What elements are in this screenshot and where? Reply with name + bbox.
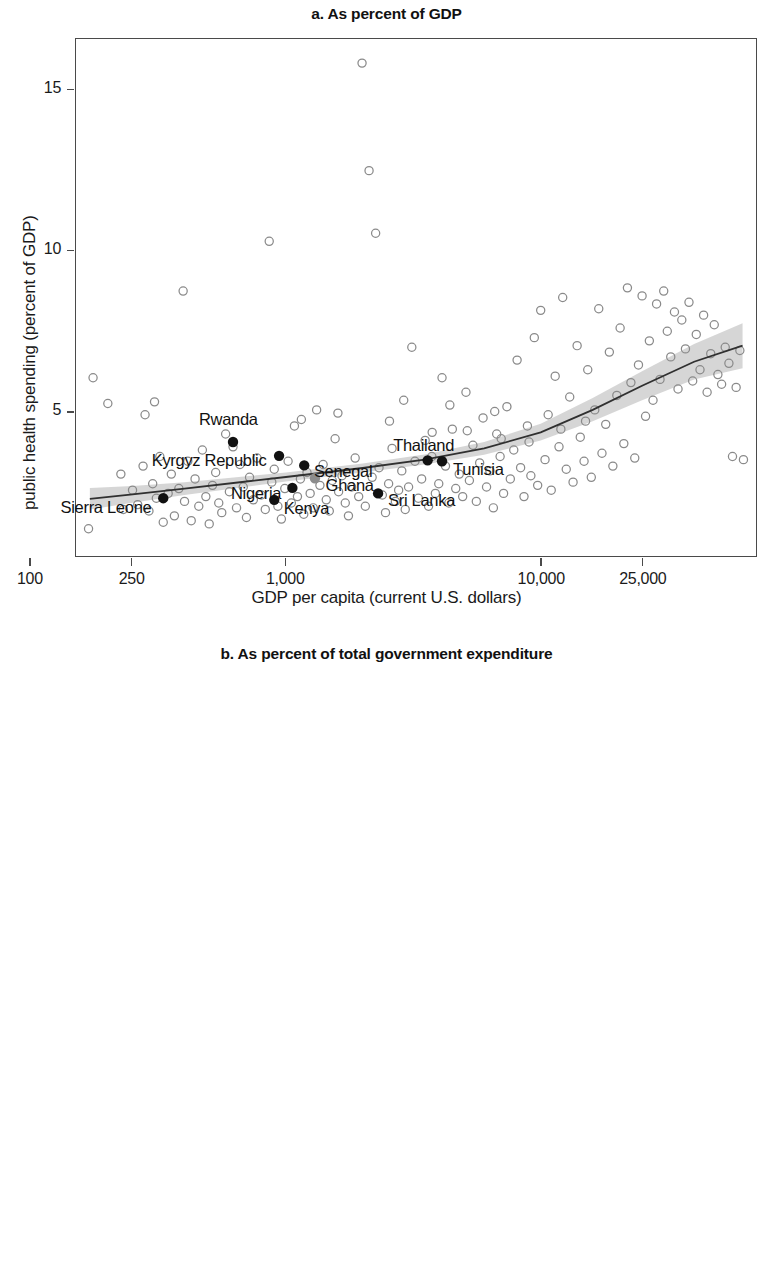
data-point (634, 361, 642, 369)
data-point (569, 478, 577, 486)
data-point (670, 308, 678, 316)
y-tick-label: 5 (21, 401, 61, 419)
data-point (562, 465, 570, 473)
data-point (372, 229, 380, 237)
data-point (218, 509, 226, 517)
y-tick-mark (67, 411, 74, 412)
data-point (408, 343, 416, 351)
point-label-nigeria: Nigeria (231, 484, 281, 503)
data-point (232, 504, 240, 512)
data-point (361, 502, 369, 510)
data-point (678, 316, 686, 324)
y-tick-mark (67, 250, 74, 251)
x-tick-mark (642, 558, 643, 566)
y-tick-label: 10 (21, 240, 61, 258)
data-point (520, 493, 528, 501)
x-tick-label: 10,000 (518, 570, 565, 588)
data-point (180, 497, 188, 505)
data-point (739, 456, 747, 464)
data-point (573, 342, 581, 350)
data-point (89, 374, 97, 382)
data-point (631, 454, 639, 462)
data-point (584, 366, 592, 374)
data-point (385, 480, 393, 488)
data-point (566, 393, 574, 401)
data-point (499, 489, 507, 497)
x-tick-mark (131, 558, 132, 566)
data-point (141, 411, 149, 419)
panel-as-percent-of-government-expenditure: b. As percent of total government expend… (0, 631, 773, 1261)
data-point (104, 399, 112, 407)
data-point (551, 372, 559, 380)
highlighted-point-kyrgyz-republic (274, 451, 284, 461)
point-label-thailand: Thailand (393, 436, 454, 455)
data-point (261, 505, 269, 513)
data-point (398, 467, 406, 475)
x-tick-label: 25,000 (619, 570, 666, 588)
data-point (616, 324, 624, 332)
data-point (703, 388, 711, 396)
data-point (649, 396, 657, 404)
data-point (663, 327, 671, 335)
x-tick-label: 100 (17, 570, 43, 588)
data-point (205, 520, 213, 528)
data-point (202, 493, 210, 501)
point-label-rwanda: Rwanda (199, 410, 258, 429)
data-point (179, 287, 187, 295)
data-point (170, 512, 178, 520)
data-point (598, 449, 606, 457)
data-point (167, 470, 175, 478)
data-point (472, 497, 480, 505)
data-point (84, 525, 92, 533)
panel-a-scatter-canvas (76, 39, 756, 556)
data-point (351, 454, 359, 462)
data-point (365, 167, 373, 175)
data-point (493, 430, 501, 438)
y-tick-mark (67, 89, 74, 90)
data-point (306, 489, 314, 497)
data-point (459, 493, 467, 501)
data-point (313, 406, 321, 414)
confidence-band (90, 323, 743, 509)
panel-as-percent-of-gdp: a. As percent of GDP public health spend… (0, 0, 773, 630)
highlighted-point-nigeria (287, 483, 297, 493)
data-point (139, 462, 147, 470)
data-point (652, 300, 660, 308)
data-point (700, 311, 708, 319)
data-point (527, 472, 535, 480)
data-point (580, 457, 588, 465)
data-point (341, 499, 349, 507)
data-point (187, 517, 195, 525)
panel-a-y-axis-label: public health spending (percent of GDP) (20, 215, 40, 510)
point-label-kenya: Kenya (284, 499, 329, 518)
data-point (555, 443, 563, 451)
data-point (609, 462, 617, 470)
highlighted-point-sierra-leone (158, 493, 168, 503)
data-point (544, 411, 552, 419)
data-point (284, 457, 292, 465)
data-point (559, 293, 567, 301)
data-point (150, 398, 158, 406)
point-label-ghana: Ghana (326, 476, 374, 495)
data-point (641, 412, 649, 420)
data-point (595, 305, 603, 313)
data-point (290, 422, 298, 430)
data-point (222, 430, 230, 438)
data-point (732, 383, 740, 391)
data-point (620, 440, 628, 448)
data-point (660, 287, 668, 295)
data-point (506, 475, 514, 483)
data-point (503, 403, 511, 411)
data-point (435, 480, 443, 488)
data-point (462, 388, 470, 396)
data-point (623, 284, 631, 292)
highlighted-point-tunisia (437, 456, 447, 466)
data-point (418, 475, 426, 483)
data-point (587, 473, 595, 481)
data-point (117, 470, 125, 478)
data-point (685, 298, 693, 306)
data-point (638, 292, 646, 300)
data-point (331, 435, 339, 443)
point-label-tunisia: Tunisia (453, 460, 503, 479)
fitted-line (90, 346, 743, 499)
